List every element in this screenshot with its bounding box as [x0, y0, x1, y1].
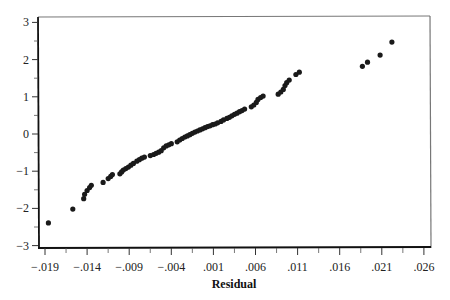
data-point: [89, 183, 94, 188]
x-tick-label: −.004: [157, 260, 185, 274]
y-axis: −3−2−10123: [16, 15, 38, 252]
x-tick-label: .021: [371, 260, 392, 274]
y-tick-label: −3: [16, 239, 29, 253]
data-point: [360, 64, 365, 69]
x-tick-label: .016: [329, 260, 350, 274]
x-axis-title: Residual: [212, 277, 257, 291]
data-point: [46, 220, 51, 225]
x-tick-label: .006: [245, 260, 266, 274]
y-tick-label: 0: [23, 127, 29, 141]
frame-top-border: [38, 16, 430, 17]
normal-probability-plot: −3−2−10123 −.019−.014−.009−.004.001.006.…: [0, 0, 450, 300]
data-point: [70, 207, 75, 212]
y-tick-label: 3: [23, 15, 29, 29]
x-axis-line: [38, 247, 431, 248]
y-tick-label: −2: [16, 201, 29, 215]
data-point: [242, 107, 247, 112]
x-tick-label: −.019: [31, 260, 59, 274]
data-point: [287, 78, 292, 83]
y-axis-line: [38, 17, 39, 248]
y-tick-label: −1: [16, 164, 29, 178]
data-point: [378, 53, 383, 58]
y-tick-label: 2: [23, 53, 29, 67]
data-point: [81, 196, 86, 201]
x-tick-label: −.009: [115, 260, 143, 274]
data-point: [389, 40, 394, 45]
x-tick-label: .011: [287, 260, 308, 274]
data-point: [297, 70, 302, 75]
x-axis: −.019−.014−.009−.004.001.006.011.016.021…: [31, 248, 434, 274]
x-tick-label: .026: [413, 260, 434, 274]
plot-frame: [38, 16, 431, 248]
data-point: [261, 94, 266, 99]
y-tick-label: 1: [23, 90, 29, 104]
x-tick-label: −.014: [73, 260, 101, 274]
data-point: [101, 180, 106, 185]
x-tick-label: .001: [203, 260, 224, 274]
frame-right-border: [430, 16, 431, 248]
data-point: [110, 172, 115, 177]
data-point: [365, 60, 370, 65]
data-point: [142, 155, 147, 160]
data-point: [169, 141, 174, 146]
data-points: [46, 40, 395, 226]
